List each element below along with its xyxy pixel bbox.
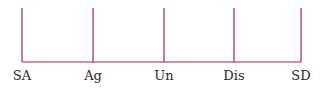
label-sa: SA (13, 68, 31, 83)
label-dis: Dis (223, 68, 244, 83)
label-ag: Ag (84, 68, 102, 83)
label-un: Un (154, 68, 173, 83)
label-sd: SD (291, 68, 310, 83)
